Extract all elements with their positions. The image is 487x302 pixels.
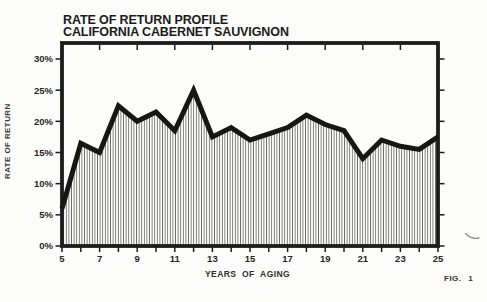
y-tick-label: 20% xyxy=(34,116,54,127)
x-axis-title: YEARS OF AGING xyxy=(205,269,290,279)
x-tick-label: 5 xyxy=(59,253,65,264)
x-tick-label: 19 xyxy=(320,253,331,264)
y-tick-label: 30% xyxy=(34,53,54,64)
y-tick-label: 15% xyxy=(34,147,54,158)
x-tick-label: 9 xyxy=(135,253,140,264)
chart-canvas: 0%5%10%15%20%25%30%5791113151719212325 xyxy=(0,0,487,302)
x-tick-label: 15 xyxy=(245,253,256,264)
figure-page: RATE OF RETURN PROFILE CALIFORNIA CABERN… xyxy=(0,0,487,302)
x-tick-label: 13 xyxy=(207,253,218,264)
figure-number: FIG. 1 xyxy=(444,274,473,283)
y-tick-label: 25% xyxy=(34,85,54,96)
y-tick-label: 5% xyxy=(39,209,53,220)
y-tick-label: 10% xyxy=(34,178,54,189)
x-tick-label: 23 xyxy=(395,253,406,264)
x-tick-label: 25 xyxy=(433,253,444,264)
x-tick-label: 21 xyxy=(358,253,369,264)
stray-pen-mark xyxy=(466,234,480,239)
area-fill xyxy=(62,90,438,246)
x-tick-label: 17 xyxy=(282,253,293,264)
y-tick-label: 0% xyxy=(39,240,53,251)
x-tick-label: 11 xyxy=(170,253,181,264)
x-tick-label: 7 xyxy=(97,253,102,264)
